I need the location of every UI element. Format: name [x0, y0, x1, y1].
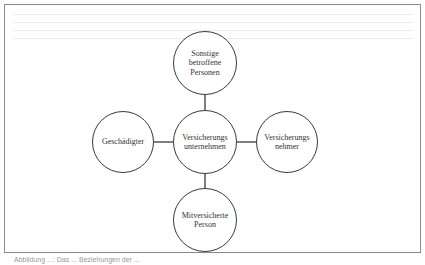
- node-label: Mitversicherte Person: [182, 211, 229, 230]
- node-label: Sonstige betroffene Personen: [189, 49, 222, 78]
- node-sonstige-betroffene-personen: Sonstige betroffene Personen: [173, 31, 237, 95]
- node-label: Geschädigter: [102, 137, 144, 147]
- node-geschaedigter: Geschädigter: [92, 111, 154, 173]
- node-versicherungsnehmer: Versicherungs nehmer: [256, 111, 318, 173]
- node-mitversicherte-person: Mitversicherte Person: [173, 188, 237, 252]
- figure-caption: Abbildung ...: Das ... Beziehungen der .…: [14, 256, 140, 263]
- node-label: Versicherungs unternehmen: [182, 133, 227, 152]
- node-label: Versicherungs nehmer: [264, 133, 309, 152]
- node-versicherungsunternehmen: Versicherungs unternehmen: [173, 110, 237, 174]
